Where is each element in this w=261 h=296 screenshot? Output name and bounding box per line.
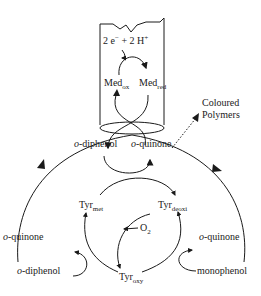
o2-label: O2 xyxy=(140,222,151,236)
med-ox-to-red-arrow xyxy=(119,57,146,75)
left-diphenol-label: o-diphenol xyxy=(17,265,61,276)
outer-left-arrowhead xyxy=(37,159,45,169)
electron-proton-label: 2 e− + 2 H+ xyxy=(103,34,148,46)
tyr-deoxi-label: Tyrdeoxi xyxy=(158,199,187,213)
outer-cycle-arc xyxy=(18,135,245,262)
met-to-deoxi-arrow xyxy=(100,178,175,195)
o2-input-arrow xyxy=(124,228,138,229)
right-quinone-label: o-quinone xyxy=(199,231,240,242)
med-red-label: Medred xyxy=(139,77,167,91)
oxy-to-met-arrow xyxy=(85,213,118,272)
electron-input-arrow xyxy=(122,50,125,58)
oxy-to-deoxi-arrow xyxy=(142,212,181,272)
left-quinone-label: o-quinone xyxy=(3,231,44,242)
center-diphenol-label: o-diphenol xyxy=(74,138,118,149)
tyr-met-label: Tyrmet xyxy=(79,199,103,213)
tyr-oxy-label: Tyroxy xyxy=(119,271,144,285)
diphenol-to-quinone-arrow xyxy=(104,156,150,173)
med-ox-arrowhead xyxy=(113,89,120,96)
outer-right-arrowhead xyxy=(212,164,222,172)
tyrosinase-diagram: 2 e− + 2 H+ Medox Medred Coloured Polyme… xyxy=(0,0,261,296)
polymer-dotted-arrow xyxy=(172,118,196,148)
monophenol-label: monophenol xyxy=(197,265,247,276)
coloured-label: Coloured xyxy=(202,97,239,108)
med-ox-label: Medox xyxy=(104,77,130,91)
polymer-arrowhead xyxy=(192,113,199,122)
right-monophenol-to-quinone-arrow xyxy=(179,250,196,271)
center-quinone-label: o-quinone xyxy=(131,138,172,149)
left-diphenol-to-quinone-arrow xyxy=(73,252,87,276)
polymers-label: Polymers xyxy=(202,109,240,120)
